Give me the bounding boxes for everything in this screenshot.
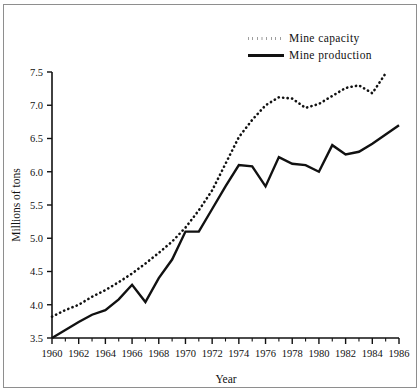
chart-figure: 3.54.04.55.05.56.06.57.07.5 196019621964… [0, 0, 420, 392]
y-axis-tick-label: 6.5 [30, 133, 43, 144]
x-axis-tick-label: 1978 [282, 348, 303, 359]
x-axis: 1960196219641966196819701972197419761978… [42, 338, 410, 359]
y-axis-tick-label: 7.0 [30, 100, 43, 111]
y-axis-tick-label: 6.0 [30, 167, 43, 178]
x-axis-tick-label: 1966 [122, 348, 143, 359]
y-axis-tick-label: 3.5 [30, 333, 43, 344]
y-axis-tick-label: 4.0 [30, 300, 43, 311]
line-chart: 3.54.04.55.05.56.06.57.07.5 196019621964… [0, 0, 420, 392]
x-axis-tick-label: 1986 [389, 348, 410, 359]
x-axis-tick-label: 1982 [335, 348, 356, 359]
x-axis-tick-label: 1968 [148, 348, 169, 359]
y-axis-tick-label: 5.0 [30, 233, 43, 244]
x-axis-tick-label: 1964 [95, 348, 117, 359]
y-axis-tick-label: 4.5 [30, 266, 43, 277]
legend-label-mine-production: Mine production [289, 49, 372, 62]
x-axis-tick-label: 1980 [308, 348, 329, 359]
x-axis-tick-label: 1970 [175, 348, 196, 359]
x-axis-tick-label: 1976 [255, 348, 276, 359]
x-axis-title: Year [215, 373, 236, 385]
chart-legend: Mine capacityMine production [248, 32, 372, 62]
x-axis-tick-label: 1972 [202, 348, 223, 359]
series-line-mine-capacity [52, 73, 386, 316]
data-series-group [52, 73, 399, 338]
legend-label-mine-capacity: Mine capacity [289, 32, 360, 45]
y-axis: 3.54.04.55.05.56.06.57.07.5 [30, 67, 52, 344]
x-axis-tick-label: 1974 [228, 348, 250, 359]
y-axis-title: Millions of tons [10, 168, 22, 242]
x-axis-tick-label: 1984 [362, 348, 384, 359]
series-line-mine-production [52, 125, 399, 338]
y-axis-tick-label: 7.5 [30, 67, 43, 78]
x-axis-tick-label: 1962 [68, 348, 89, 359]
x-axis-tick-label: 1960 [42, 348, 63, 359]
y-axis-tick-label: 5.5 [30, 200, 43, 211]
